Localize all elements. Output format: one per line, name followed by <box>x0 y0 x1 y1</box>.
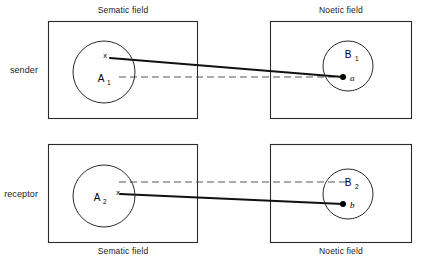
diagram-figure: Sematic field Noetic field sender x A 1 … <box>0 0 423 261</box>
receptor-set-a2-circle <box>73 165 135 227</box>
sender-set-b1-subscript: 1 <box>355 55 359 62</box>
receptor-set-a2-subscript: 2 <box>103 198 107 205</box>
receptor-solid-connection-line <box>120 194 343 204</box>
receptor-set-a2-x-marker: x <box>116 188 120 197</box>
receptor-point-b-dot <box>340 201 346 207</box>
receptor-set-b2-subscript: 2 <box>355 183 359 190</box>
receptor-noetic-field-box <box>271 145 412 243</box>
sender-point-a-label: a <box>350 73 355 83</box>
receptor-sematic-field-label: Sematic field <box>98 246 149 256</box>
sender-role-label: sender <box>10 65 38 75</box>
sender-set-a1-x-marker: x <box>103 51 107 60</box>
sender-set-a1-label: A <box>98 73 105 84</box>
sender-sematic-field-box <box>49 22 198 119</box>
sender-noetic-field-label: Noetic field <box>319 5 363 15</box>
sender-noetic-field-box <box>271 22 412 119</box>
sender-point-a-dot <box>340 74 346 80</box>
receptor-point-b-label: b <box>350 200 355 210</box>
receptor-set-b2-label: B <box>345 177 352 188</box>
sender-set-b1-label: B <box>345 49 352 60</box>
receptor-role-label: receptor <box>4 189 38 199</box>
receptor-set-a2-label: A <box>94 192 101 203</box>
sender-solid-connection-line <box>110 58 343 77</box>
sender-sematic-field-label: Sematic field <box>98 5 149 15</box>
receptor-noetic-field-label: Noetic field <box>319 246 363 256</box>
sender-set-a1-subscript: 1 <box>107 79 111 86</box>
